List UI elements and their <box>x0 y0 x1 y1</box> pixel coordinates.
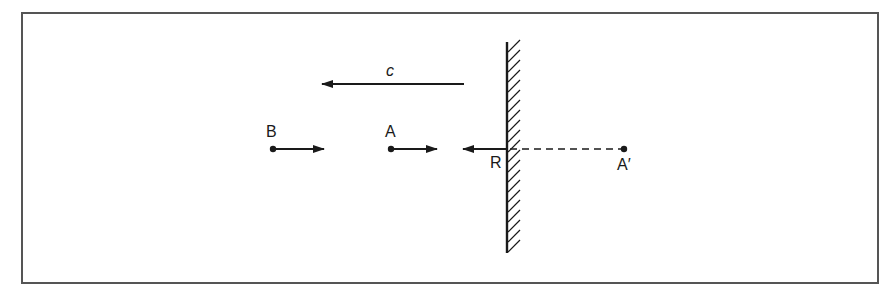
label-a-prime: A′ <box>617 157 631 173</box>
label-r: R <box>490 155 502 171</box>
frame-border <box>22 13 878 283</box>
mirror-hatching <box>508 40 520 252</box>
diagram-canvas <box>0 0 894 294</box>
diagram-stage: c B A R A′ <box>0 0 894 294</box>
point-a-prime-dot <box>621 146 627 152</box>
mirror <box>507 40 520 253</box>
label-c: c <box>386 63 394 79</box>
label-a: A <box>385 124 396 140</box>
label-b: B <box>266 124 277 140</box>
